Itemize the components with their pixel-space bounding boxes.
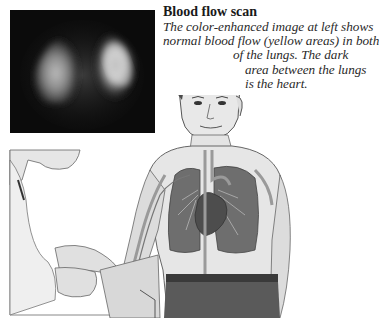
medical-illustration xyxy=(0,95,365,318)
illustration-graphic xyxy=(0,95,365,318)
caption-line: of the lungs. The dark xyxy=(233,47,348,63)
caption-title: Blood flow scan xyxy=(163,4,257,20)
technician xyxy=(10,150,116,315)
caption-line: is the heart. xyxy=(245,76,308,92)
patient-head xyxy=(176,95,242,140)
